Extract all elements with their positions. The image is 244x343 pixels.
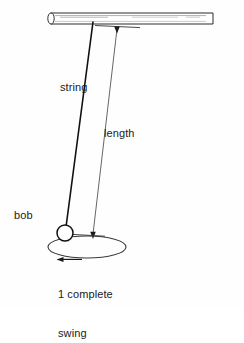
pendulum-bob xyxy=(57,225,73,241)
length-top-arrowhead-icon xyxy=(114,27,120,34)
pendulum-string xyxy=(66,22,93,227)
label-bob: bob xyxy=(14,209,33,222)
support-rod-endcap-icon xyxy=(48,13,54,24)
label-string: string xyxy=(60,81,88,94)
support-rod-body xyxy=(51,13,213,24)
label-swing-line-2: swing xyxy=(58,327,113,340)
label-length: length xyxy=(104,127,135,140)
label-swing-caption: 1 complete swing xyxy=(58,262,113,343)
label-swing-line-1: 1 complete xyxy=(58,288,113,301)
support-rod xyxy=(48,13,213,24)
